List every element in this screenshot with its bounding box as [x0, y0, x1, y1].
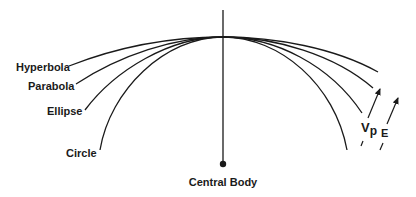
vp-label: Vp [361, 120, 377, 138]
e-arrow-tail [380, 143, 383, 150]
ellipse-label: Ellipse [47, 105, 82, 117]
e-label: E [381, 127, 388, 139]
central-body-label: Central Body [189, 176, 258, 188]
vp-arrow [368, 89, 380, 118]
vp-arrow-tail [361, 141, 363, 146]
parabola-curve [76, 37, 373, 88]
circle-label: Circle [66, 147, 97, 159]
hyperbola-label: Hyperbola [16, 61, 71, 73]
parabola-label: Parabola [28, 80, 75, 92]
central-body-dot [220, 161, 226, 167]
e-arrow [387, 98, 398, 124]
orbit-diagram: Hyperbola Parabola Ellipse Circle Vp E C… [0, 0, 416, 197]
